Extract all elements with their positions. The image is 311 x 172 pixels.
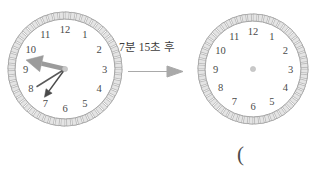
clock-tick [249,117,253,124]
clock-numeral-1: 1 [269,31,274,42]
clock-numeral-5: 5 [82,98,87,109]
clock-numeral-6: 6 [250,101,255,112]
clock-numeral-3: 3 [102,64,107,75]
clock-numeral-7: 7 [43,98,48,109]
clock-after-container: 121234567891011 [188,0,311,140]
clock-tick [301,69,308,73]
clock-numeral-12: 12 [248,26,259,37]
clock-numeral-2: 2 [97,44,102,55]
clock-numeral-5: 5 [269,96,274,107]
clock-tick [65,12,69,19]
clock-tick [301,63,308,67]
clock-tick [55,118,60,126]
clock-numeral-11: 11 [40,29,50,40]
clock-center-hub [62,66,67,71]
clock-numeral-12: 12 [60,24,71,35]
clock-before-container: 121234567891011 [0,0,140,140]
transition-label: 7분 15초 후 [119,38,175,54]
clock-numeral-3: 3 [288,64,293,75]
clock-numeral-4: 4 [283,82,289,93]
clock-tick [253,14,257,21]
clock-numeral-4: 4 [97,83,103,94]
clock-tick [114,74,122,79]
clock-tick [198,70,205,74]
clock-tick [70,12,75,19]
analog-clock-before: 121234567891011 [0,0,140,140]
clock-tick [8,70,15,74]
clock-tick [198,65,205,69]
analog-clock-after: 121234567891011 [188,0,311,140]
clock-numeral-11: 11 [229,31,239,42]
clock-tick [254,117,258,124]
clock-tick [61,119,65,126]
clock-tick [115,63,122,67]
clock-numeral-8: 8 [28,83,33,94]
clock-tick [8,65,15,69]
clock-tick [247,14,251,21]
clock-numeral-6: 6 [62,103,67,114]
clock-tick [66,119,70,126]
clock-numeral-7: 7 [232,96,237,107]
clock-center-hub [250,66,255,71]
right-arrow-icon [127,62,185,80]
answer-blank: ( [237,144,244,165]
clock-numeral-10: 10 [26,44,37,55]
clock-tick [59,12,63,19]
clock-numeral-9: 9 [23,64,28,75]
clock-numeral-1: 1 [82,29,87,40]
clock-tick [8,59,16,64]
right-arrow-glyph [127,62,185,80]
clock-numeral-9: 9 [213,64,218,75]
worksheet-canvas: 121234567891011 7분 15초 후 121234567891011… [0,0,311,172]
clock-tick [115,69,122,73]
clock-numeral-8: 8 [218,82,223,93]
clock-numeral-2: 2 [283,45,288,56]
clock-numeral-10: 10 [215,45,226,56]
